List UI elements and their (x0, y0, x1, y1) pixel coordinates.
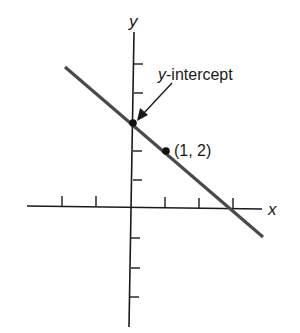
point-label: (1, 2) (174, 142, 211, 159)
y-axis-label: y (128, 12, 139, 31)
coordinate-plane: y x y-intercept (1, 2) (0, 0, 300, 333)
graph-figure: y x y-intercept (1, 2) (0, 0, 300, 333)
y-intercept-label: y-intercept (157, 66, 233, 83)
intercept-arrow (144, 83, 172, 113)
y-intercept-point (129, 119, 137, 127)
x-axis-label: x (267, 200, 277, 219)
point-1-2 (162, 147, 170, 155)
